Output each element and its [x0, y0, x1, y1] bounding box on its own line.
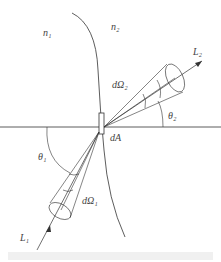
lower-cone — [46, 132, 99, 223]
dOmega1-label: dΩ₁ — [82, 196, 98, 206]
L2-label: L₂ — [193, 47, 202, 57]
n2-label: n₂ — [111, 22, 119, 32]
theta2-label: θ₂ — [168, 111, 176, 121]
L1-label: L₁ — [20, 233, 29, 243]
caption-cropped — [8, 252, 213, 260]
L1-arrowhead — [46, 225, 51, 232]
theta1-arc — [47, 127, 70, 173]
L2-arrowhead — [195, 61, 202, 67]
theta1-label: θ₁ — [38, 152, 46, 162]
theta2-arc — [158, 101, 163, 127]
dOmega2-label: dΩ₂ — [112, 80, 128, 90]
L2-ray — [104, 61, 202, 127]
dA-label: dA — [110, 133, 121, 143]
L1-ray — [37, 132, 99, 250]
interface-curve — [72, 13, 125, 237]
radiance-refraction-diagram — [0, 0, 221, 262]
n1-label: n₁ — [43, 28, 51, 38]
area-element — [99, 113, 104, 134]
